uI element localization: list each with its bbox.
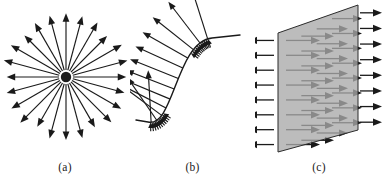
field-arrow-right-row-6-head [373, 103, 382, 110]
radial-ray-13-head [48, 129, 55, 138]
normal-vector-long-11 [191, 0, 207, 39]
field-arrow-left-row-4 [255, 96, 274, 103]
radial-ray-1-head [77, 16, 84, 25]
normal-vector-long-10-shaft [171, 5, 200, 43]
normal-vector-long-9 [153, 17, 194, 49]
radial-ray-21-shaft [28, 39, 61, 72]
normal-vector-long-8 [143, 32, 188, 58]
normal-vector-long-0-head [145, 70, 151, 78]
field-arrow-left-row-1 [255, 52, 274, 59]
source-point-dot [61, 72, 71, 82]
field-arrow-right-row-3 [360, 56, 382, 63]
radial-ray-3 [71, 36, 107, 72]
panel-c-caption: (c) [255, 162, 383, 174]
field-arrow-left-row-6 [255, 126, 274, 133]
normal-vector-long-11-shaft [193, 0, 207, 39]
radial-ray-14-head [37, 118, 44, 127]
field-arrow-right-row-2 [360, 40, 382, 47]
normal-vector-short-21-head [207, 39, 212, 45]
radial-ray-7-head [115, 87, 124, 94]
radial-ray-0 [63, 13, 70, 70]
normal-vector-group-long [130, 0, 208, 122]
field-arrow-right-row-4-head [373, 72, 382, 79]
field-arrow-right-row-7 [360, 119, 382, 126]
field-arrow-left-row-4-head [255, 96, 257, 103]
normal-vector-long-8-head [143, 32, 152, 39]
panel-b-diagram [130, 0, 255, 155]
field-arrow-right-row-4 [360, 72, 382, 79]
radial-ray-20-head [11, 45, 20, 52]
flux-plane-surface [278, 5, 358, 152]
field-arrow-right-row-0-head [373, 9, 382, 16]
field-arrow-right-row-7-head [373, 119, 382, 126]
panel-c-plane-flux: (c) [255, 0, 383, 177]
radial-ray-16-head [11, 101, 20, 108]
normal-vector-long-5 [130, 70, 174, 89]
radial-ray-15-shaft [24, 82, 61, 119]
radial-ray-19-head [4, 59, 13, 66]
field-arrow-left-row-5-head [255, 111, 257, 118]
field-arrow-left-row-5 [255, 111, 274, 118]
field-arrow-left-row-0 [255, 37, 274, 44]
field-arrow-left-row-3 [255, 81, 274, 88]
radial-ray-11-head [77, 129, 84, 138]
field-arrow-left-row-1-head [255, 52, 257, 59]
radial-ray-23-head [49, 16, 56, 25]
radial-ray-5-head [118, 59, 127, 66]
normal-vector-long-2-shaft [130, 87, 162, 115]
s-curve-path [136, 35, 240, 122]
normal-vector-long-10-head [168, 2, 175, 10]
radial-ray-0-head [63, 13, 70, 21]
field-arrow-left-row-7-head [255, 141, 257, 148]
radial-ray-8-head [112, 102, 121, 109]
radial-ray-17-head [7, 87, 16, 94]
normal-vector-group-short [148, 39, 212, 131]
radial-ray-12-head [63, 131, 70, 140]
field-arrow-left-row-0-head [255, 37, 257, 44]
field-arrow-right-row-5-head [373, 87, 382, 94]
radial-ray-2-head [90, 23, 97, 32]
radial-ray-9-shaft [71, 82, 108, 119]
radial-ray-10-head [88, 118, 95, 127]
figure-root: (a) (b) (c) [0, 0, 383, 177]
normal-vector-long-6-head [130, 59, 139, 65]
normal-vector-long-0-shaft [148, 75, 151, 123]
panel-a-radial-field: (a) [0, 0, 130, 177]
field-arrow-left-row-7 [255, 141, 274, 148]
radial-ray-6-head [118, 74, 127, 81]
panel-b-curve-normals: (b) [130, 0, 255, 177]
field-arrow-left-row-6-head [255, 126, 257, 133]
normal-vector-long-9-head [153, 17, 161, 24]
radial-ray-21 [24, 35, 61, 72]
radial-ray-18 [7, 74, 59, 81]
radial-ray-22-head [35, 23, 42, 32]
radial-ray-18-head [7, 74, 16, 81]
field-arrow-left-row-2-head [255, 67, 257, 74]
radial-ray-3-shaft [71, 39, 104, 72]
field-arrow-right-row-5 [360, 87, 382, 94]
normal-vector-long-9-shaft [156, 20, 193, 50]
field-arrow-right-row-0 [360, 9, 382, 16]
field-arrow-right-row-2-head [373, 40, 382, 47]
radial-ray-12 [63, 84, 70, 140]
normal-vector-long-10 [168, 2, 200, 43]
normal-vector-long-7-head [135, 46, 144, 52]
panel-c-diagram [255, 0, 383, 155]
field-arrow-right-row-1 [360, 25, 382, 32]
panel-a-diagram [0, 0, 130, 155]
radial-ray-6 [73, 74, 126, 81]
field-arrow-left-row-3-head [255, 81, 257, 88]
field-arrow-right-row-6 [360, 103, 382, 110]
panel-a-caption: (a) [0, 162, 130, 174]
field-arrow-right-row-3-head [373, 56, 382, 63]
radial-ray-4-head [113, 45, 122, 52]
field-arrow-right-row-1-head [373, 25, 382, 32]
panel-b-caption: (b) [130, 162, 255, 174]
normal-vector-short-21 [207, 39, 212, 48]
field-arrow-left-row-2 [255, 67, 274, 74]
s-curve [136, 35, 240, 122]
